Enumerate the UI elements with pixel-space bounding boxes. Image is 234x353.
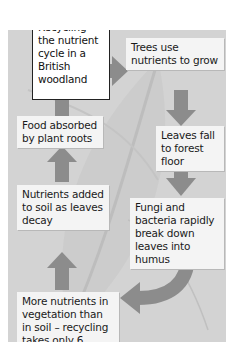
step-trees-use-nutrients: Trees use nutrients to grow [126, 38, 224, 70]
figure-label-box: Figure 14.6 Recycling – the nutrient cyc… [32, 30, 110, 100]
arrow-up-icon [47, 146, 77, 182]
step-more-nutrients-vegetation: More nutrients in vegetation than in soi… [17, 292, 119, 342]
figure-caption: Recycling – the nutrient cycle in a Brit… [38, 30, 98, 85]
arrow-up-icon [47, 252, 77, 290]
step-label: Nutrients added to soil as leaves decay [22, 188, 104, 226]
step-nutrients-added-soil: Nutrients added to soil as leaves decay [17, 185, 109, 230]
step-label: Trees use nutrients to grow [131, 41, 218, 66]
cycle-diagram-panel: Figure 14.6 Recycling – the nutrient cyc… [8, 30, 226, 342]
step-label: Fungi and bacteria rapidly break down le… [135, 201, 214, 265]
step-leaves-fall: Leaves fall to forest floor [156, 126, 224, 171]
step-fungi-bacteria: Fungi and bacteria rapidly break down le… [130, 198, 224, 269]
step-label: Food absorbed by plant roots [22, 119, 97, 144]
arrow-down-icon [166, 90, 196, 126]
step-food-absorbed: Food absorbed by plant roots [17, 116, 103, 148]
step-label: More nutrients in vegetation than in soi… [22, 295, 108, 342]
step-label: Leaves fall to forest floor [161, 129, 215, 167]
